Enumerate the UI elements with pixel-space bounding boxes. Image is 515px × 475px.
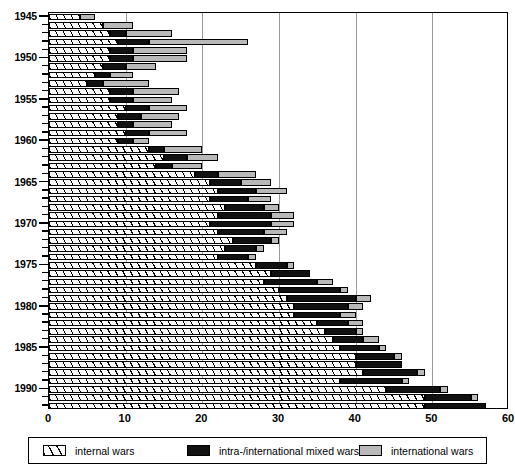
bar-row [49,105,509,112]
bar-segment-intl [271,221,294,228]
bar-segment-mixed [294,312,340,319]
gray-swatch [359,445,382,456]
x-tick-label-40: 40 [349,412,361,424]
bar-segment-internal [49,154,164,161]
bar-segment-intl [356,295,371,302]
bar-segment-internal [49,171,195,178]
bar-segment-intl [149,39,249,46]
bar-segment-internal [49,221,210,228]
bar-segment-intl [264,229,287,236]
y-tick-label-1975: 1975 [14,258,37,270]
bar-row [49,22,509,29]
bar-segment-intl [348,303,363,310]
bar-row [49,378,509,385]
bar-segment-mixed [256,262,287,269]
bar-segment-mixed [218,229,264,236]
y-tick-1950 [39,57,48,59]
bar-row [49,229,509,236]
bar-segment-internal [49,378,340,385]
bar-segment-mixed [210,196,248,203]
bar-segment-mixed [110,30,125,37]
bar-segment-intl [271,212,294,219]
x-tick-label-0: 0 [45,412,51,424]
bar-segment-mixed [110,55,133,62]
bar-segment-mixed [210,221,271,228]
x-tick-label-30: 30 [272,412,284,424]
bar-segment-internal [49,403,425,410]
bar-segment-internal [49,345,340,352]
bar-segment-intl [141,113,179,120]
bar-segment-intl [440,386,448,393]
bar-row [49,188,509,195]
bar-segment-intl [172,163,203,170]
bar-segment-internal [49,361,356,368]
bar-segment-intl [363,336,378,343]
y-tick-label-1985: 1985 [14,341,37,353]
bar-row [49,196,509,203]
bar-segment-intl [271,237,279,244]
bar-row [49,303,509,310]
bar-segment-internal [49,320,317,327]
bar-row [49,163,509,170]
bar-segment-internal [49,80,87,87]
x-axis: 0102030405060 [48,409,508,433]
bar-segment-internal [49,353,356,360]
bar-segment-internal [49,105,126,112]
bar-segment-intl [103,22,134,29]
bar-segment-intl [218,171,256,178]
y-tick-1945 [39,15,48,17]
bar-segment-intl [133,55,187,62]
bar-segment-intl [417,369,425,376]
bar-segment-internal [49,55,110,62]
bar-segment-internal [49,163,156,170]
bar-segment-intl [471,394,479,401]
bar-segment-mixed [294,303,348,310]
bar-segment-mixed [118,138,133,145]
bar-segment-mixed [340,378,401,385]
legend-label: international wars [391,445,473,457]
y-tick-label-1970: 1970 [14,217,37,229]
bar-row [49,72,509,79]
bar-segment-internal [49,270,271,277]
bar-segment-intl [256,245,264,252]
bar-segment-internal [49,328,325,335]
bar-segment-mixed [325,328,356,335]
bar-segment-mixed [110,47,133,54]
bar-row [49,204,509,211]
bar-segment-intl [80,14,95,21]
bar-row [49,88,509,95]
bar-segment-intl [164,146,202,153]
y-tick-1990 [39,388,48,390]
y-tick-1985 [39,346,48,348]
y-tick-1960 [39,139,48,141]
y-tick-1980 [39,305,48,307]
bar-segment-intl [133,88,179,95]
bar-segment-intl [340,312,355,319]
bar-segment-internal [49,369,363,376]
bar-row [49,121,509,128]
bar-segment-intl [256,188,287,195]
bar-segment-mixed [425,394,471,401]
bar-row [49,245,509,252]
bar-segment-mixed [271,270,309,277]
bar-segment-internal [49,188,218,195]
bar-segment-mixed [225,204,263,211]
bar-segment-mixed [287,295,356,302]
bar-segment-mixed [218,254,249,261]
black-swatch [187,445,210,456]
bar-segment-mixed [118,39,149,46]
bar-segment-intl [348,320,363,327]
bar-segment-internal [49,303,294,310]
bar-segment-mixed [225,245,256,252]
bar-row [49,14,509,21]
bar-segment-internal [49,386,386,393]
bar-row [49,295,509,302]
bar-segment-mixed [195,171,218,178]
chart-legend: internal warsintra-/international mixed … [28,437,487,464]
bar-segment-intl [126,30,172,37]
bar-segment-mixed [118,113,141,120]
y-tick-1970 [39,222,48,224]
plot-area [48,12,508,409]
chart-figure: 1945195019551960196519701975198019851990… [0,0,515,475]
bar-segment-mixed [126,105,149,112]
